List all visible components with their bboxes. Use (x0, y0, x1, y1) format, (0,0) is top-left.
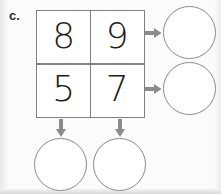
grid-cell-r2c2[interactable]: 7 (90, 63, 145, 118)
arrow-right-icon (145, 27, 162, 39)
number-grid: 8 9 5 7 (36, 10, 145, 118)
answer-circle-column-2[interactable] (93, 138, 146, 191)
exercise-label: c. (9, 9, 20, 23)
arrow-down-icon (114, 119, 126, 138)
grid-cell-r1c1[interactable]: 8 (36, 10, 91, 65)
grid-cell-r1c2[interactable]: 9 (90, 10, 145, 65)
page-right-edge-shading (215, 0, 221, 194)
arrow-down-icon (55, 119, 67, 138)
answer-circle-row-2[interactable] (163, 62, 216, 115)
answer-circle-column-1[interactable] (34, 138, 87, 191)
page-left-edge-shading (0, 0, 7, 194)
arrow-right-icon (145, 83, 162, 95)
grid-cell-r2c1[interactable]: 5 (36, 63, 91, 118)
worksheet-exercise-panel: c. 8 9 5 7 (0, 0, 221, 194)
answer-circle-row-1[interactable] (163, 6, 216, 59)
